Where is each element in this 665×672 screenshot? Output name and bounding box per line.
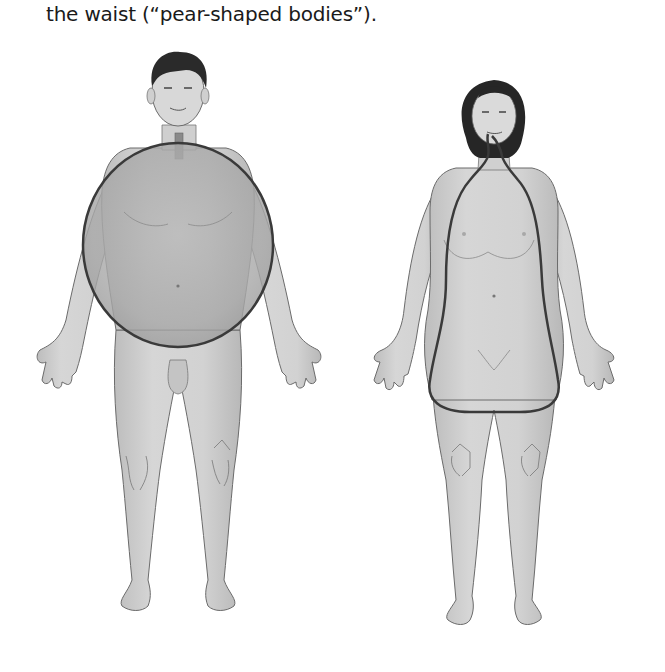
female-figure <box>374 80 614 625</box>
body-shape-illustration <box>0 0 665 672</box>
figure-caption-text: the waist (“pear-shaped bodies”). <box>46 0 377 28</box>
male-figure <box>37 52 321 611</box>
